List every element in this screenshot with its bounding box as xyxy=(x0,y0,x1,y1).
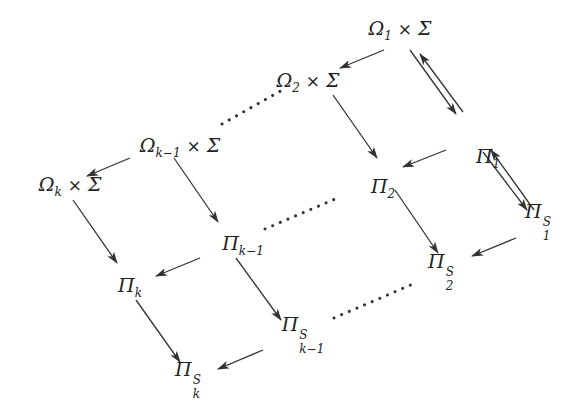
node-symbol: Π xyxy=(118,274,135,296)
node-subscript: 2 xyxy=(292,81,300,95)
sigma-symbol: Σ xyxy=(326,69,339,91)
dotted-connector-pik1S-to-pi2S xyxy=(334,284,413,318)
node-scripts: Sk xyxy=(193,374,201,400)
arrow-pi1-to-pi2 xyxy=(403,150,446,167)
node-symbol: Π xyxy=(222,232,239,254)
node-omegak_sigma: Ωk×Σ xyxy=(39,175,102,198)
node-superscript: S xyxy=(446,266,454,278)
node-symbol: Π xyxy=(371,175,388,197)
node-superscript: S xyxy=(299,329,324,341)
node-pikS: ΠSk xyxy=(175,360,201,400)
node-symbol: Ω xyxy=(39,173,55,195)
node-symbol: Ω xyxy=(368,17,384,39)
node-symbol: Π xyxy=(525,200,542,222)
arrow-pik1-to-pik xyxy=(156,258,200,276)
dotted-connector-omegak1_sigma-to-omega2_sigma xyxy=(222,89,284,124)
node-symbol: Ω xyxy=(276,69,292,91)
times-operator: × xyxy=(187,136,201,156)
times-operator: × xyxy=(306,71,320,91)
arrow-pi1S-to-pi2S xyxy=(472,238,516,256)
node-scripts: Sk−1 xyxy=(299,329,324,355)
node-subscript: 2 xyxy=(446,280,454,292)
sigma-symbol: Σ xyxy=(207,134,220,156)
node-symbol: Π xyxy=(476,145,493,167)
node-subscript: k−1 xyxy=(239,244,264,258)
arrow-omegak1_sigma-to-pik1 xyxy=(174,158,218,222)
node-subscript: k xyxy=(135,286,142,300)
node-symbol: Π xyxy=(175,358,192,380)
arrow-omega2_sigma-to-pi2 xyxy=(333,95,377,158)
node-pik1: Πk−1 xyxy=(222,234,264,257)
node-omega2_sigma: Ω2×Σ xyxy=(276,71,339,94)
arrow-omega1_sigma-to-omega2_sigma xyxy=(340,50,384,68)
node-pi1: Π1 xyxy=(476,147,500,170)
node-subscript: k xyxy=(193,388,201,400)
times-operator: × xyxy=(398,19,412,39)
node-pi1S: ΠS1 xyxy=(525,202,551,242)
node-pi2S: ΠS2 xyxy=(428,252,454,292)
node-pi2: Π2 xyxy=(371,177,395,200)
node-pik: Πk xyxy=(118,276,142,299)
arrow-pik-to-pikS xyxy=(136,300,180,362)
sigma-symbol: Σ xyxy=(88,173,101,195)
arrow-pik1-to-pik1S xyxy=(236,258,281,320)
times-operator: × xyxy=(68,175,82,195)
node-symbol: Π xyxy=(282,313,299,335)
node-subscript: 2 xyxy=(387,187,395,201)
arrow-pi2-to-pi2S xyxy=(395,190,438,253)
node-pik1S: ΠSk−1 xyxy=(282,315,325,355)
arrow-omega1_sigma-to-pi1 xyxy=(410,50,456,114)
node-superscript: S xyxy=(193,374,201,386)
node-symbol: Ω xyxy=(140,134,156,156)
node-subscript: 1 xyxy=(384,29,392,43)
node-omega1_sigma: Ω1×Σ xyxy=(368,19,431,42)
node-symbol: Π xyxy=(428,250,445,272)
node-subscript: k−1 xyxy=(299,343,324,355)
node-scripts: S2 xyxy=(446,266,454,292)
arrow-pik1S-to-pikS xyxy=(218,350,263,369)
arrow-omegak_sigma-to-pik xyxy=(73,200,117,263)
node-subscript: k xyxy=(54,185,61,199)
node-omegak1_sigma: Ωk−1×Σ xyxy=(140,136,220,159)
dotted-connector-pik1-to-pi2 xyxy=(265,199,335,229)
sigma-symbol: Σ xyxy=(418,17,431,39)
arrow-pi1-to-omega1_sigma xyxy=(420,54,463,112)
node-scripts: S1 xyxy=(543,216,551,242)
node-subscript: k−1 xyxy=(156,146,181,160)
node-superscript: S xyxy=(543,216,551,228)
dotted-connectors-layer xyxy=(222,89,413,318)
node-subscript: 1 xyxy=(492,157,500,171)
node-subscript: 1 xyxy=(543,230,551,242)
